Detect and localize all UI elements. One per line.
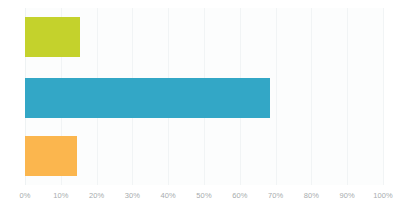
x-tick-label-80%: 80% [304, 190, 319, 201]
plot-area [25, 8, 383, 185]
bar-blue[interactable] [25, 78, 270, 118]
x-tick-label-70%: 70% [268, 190, 283, 201]
x-tick-label-50%: 50% [196, 190, 211, 201]
x-tick-label-10%: 10% [53, 190, 68, 201]
bar-orange[interactable] [25, 136, 77, 176]
x-tick-label-0%: 0% [19, 190, 30, 201]
x-tick-label-40%: 40% [161, 190, 176, 201]
x-tick-label-30%: 30% [125, 190, 140, 201]
gridline-100% [383, 8, 384, 185]
x-tick-label-20%: 20% [89, 190, 104, 201]
x-tick-label-90%: 90% [340, 190, 355, 201]
bars-layer [25, 8, 383, 185]
bar-green[interactable] [25, 17, 80, 57]
x-tick-label-60%: 60% [232, 190, 247, 201]
horizontal-bar-chart: 0%10%20%30%40%50%60%70%80%90%100% [0, 0, 407, 217]
x-tick-label-100%: 100% [373, 190, 393, 201]
x-axis: 0%10%20%30%40%50%60%70%80%90%100% [25, 190, 383, 204]
